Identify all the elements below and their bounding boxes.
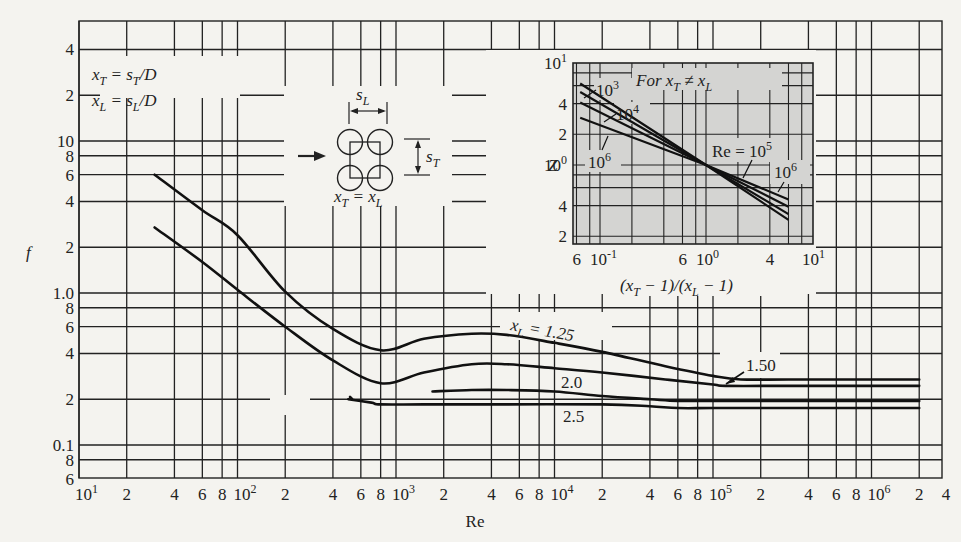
x-tick-label: 8 — [693, 485, 702, 504]
x-tick-label: 8 — [852, 485, 861, 504]
y-tick-label: 6 — [66, 470, 75, 489]
x-tick-label: 6 — [357, 485, 366, 504]
x-tick-label: 4 — [942, 485, 951, 504]
x-tick-label: 104​ — [551, 482, 574, 504]
label-2.0: 2.0 — [561, 373, 582, 392]
y-tick-label: 2 — [66, 86, 75, 105]
chart-canvas: 101​2468102​2468103​2468104​2468105​2468… — [0, 0, 961, 542]
x-tick-label: 4 — [170, 485, 179, 504]
x-tick-label: 106​ — [868, 482, 891, 504]
inset-x-tick: 6 — [678, 250, 687, 269]
inset-x-tick: 101​ — [802, 247, 825, 269]
x-axis-label: Re — [466, 512, 485, 531]
x-tick-label: 2 — [122, 485, 131, 504]
y-tick-label: 2 — [66, 390, 75, 409]
x-tick-label: 8 — [535, 485, 544, 504]
inset-x-tick: 6 — [572, 250, 581, 269]
y-tick-label: 4 — [66, 192, 75, 211]
y-tick-label: 4 — [66, 344, 75, 363]
x-tick-label: 4 — [804, 485, 813, 504]
inset-x-tick: 4 — [766, 250, 775, 269]
label-2.5: 2.5 — [563, 407, 584, 426]
inset-y-tick: 2 — [559, 125, 568, 144]
y-tick-label: 6 — [66, 318, 75, 337]
y-tick-label: 8 — [66, 147, 75, 166]
x-tick-label: 6 — [832, 485, 841, 504]
inset-label-re-1e5: Re = 105​ — [712, 139, 772, 161]
diagram-equation: xT​ = xL​ — [333, 187, 383, 210]
x-tick-label: 4 — [646, 485, 655, 504]
x-tick-label: 2 — [756, 485, 765, 504]
x-tick-label: 103​ — [392, 482, 415, 504]
x-tick-label: 2 — [915, 485, 924, 504]
x-tick-label: 6 — [674, 485, 683, 504]
x-tick-label: 2 — [439, 485, 448, 504]
x-tick-label: 8 — [376, 485, 385, 504]
y-tick-label: 4 — [66, 40, 75, 59]
y-axis-label: f — [26, 243, 33, 262]
y-tick-label: 6 — [66, 166, 75, 185]
inset-y-tick: 4 — [559, 197, 568, 216]
inset-y-tick: 2 — [559, 227, 568, 246]
x-tick-label: 2 — [598, 485, 607, 504]
inset-y-tick: 4 — [559, 95, 568, 114]
y-tick-label: 2 — [66, 238, 75, 257]
x-tick-label: 6 — [198, 485, 207, 504]
friction-factor-chart: 101​2468102​2468103​2468104​2468105​2468… — [0, 0, 961, 542]
x-tick-label: 8 — [218, 485, 227, 504]
x-tick-label: 2 — [281, 485, 290, 504]
y-tick-label: 8 — [66, 451, 75, 470]
x-tick-label: 101​ — [75, 482, 98, 504]
x-tick-label: 6 — [515, 485, 524, 504]
y-tick-label: 8 — [66, 299, 75, 318]
x-tick-label: 4 — [487, 485, 496, 504]
x-tick-label: 102​ — [234, 482, 257, 504]
label-1.50: 1.50 — [746, 356, 776, 375]
x-tick-label: 105​ — [709, 482, 732, 504]
inset-y-axis-label: Z — [548, 156, 558, 175]
x-tick-label: 4 — [329, 485, 338, 504]
